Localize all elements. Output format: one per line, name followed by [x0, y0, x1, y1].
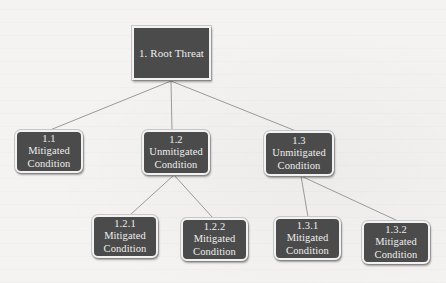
node-1.3.1[interactable]: 1.3.1 Mitigated Condition: [274, 217, 341, 260]
node-line1: Mitigated: [194, 233, 236, 246]
node-root-label: 1. Root Threat: [139, 47, 204, 60]
edge-1.2-to-1.2.1: [130, 175, 174, 215]
node-number: 1.1: [42, 133, 55, 146]
node-line1: Mitigated: [28, 145, 70, 158]
node-line2: Condition: [286, 245, 329, 258]
edge-1-to-1.2: [171, 81, 172, 131]
node-1.2[interactable]: 1.2 Unmitigated Condition: [142, 130, 210, 175]
node-line1: Unmitigated: [149, 146, 203, 159]
node-number: 1.3.2: [385, 224, 407, 237]
edge-1-to-1.1: [50, 81, 171, 130]
node-line2: Condition: [375, 249, 418, 262]
node-line2: Condition: [104, 243, 147, 256]
node-line1: Mitigated: [287, 232, 329, 245]
node-1.3[interactable]: 1.3 Unmitigated Condition: [264, 131, 334, 176]
node-number: 1.2: [169, 134, 182, 147]
node-number: 1.3.1: [297, 220, 319, 233]
node-line2: Condition: [193, 246, 236, 259]
node-1.3.2[interactable]: 1.3.2 Mitigated Condition: [362, 221, 430, 264]
node-line2: Condition: [278, 160, 321, 173]
node-number: 1.2.1: [114, 218, 136, 231]
node-line1: Unmitigated: [272, 147, 326, 160]
edge-1-to-1.3: [171, 81, 296, 131]
node-1.2.2[interactable]: 1.2.2 Mitigated Condition: [181, 218, 248, 261]
edge-1.2-to-1.2.2: [174, 175, 213, 218]
node-line1: Mitigated: [375, 236, 417, 249]
node-1.1[interactable]: 1.1 Mitigated Condition: [15, 130, 83, 173]
node-1.2.1[interactable]: 1.2.1 Mitigated Condition: [92, 215, 158, 258]
node-root-threat[interactable]: 1. Root Threat: [132, 26, 211, 80]
edge-1.3-to-1.3.2: [301, 176, 398, 221]
node-line1: Mitigated: [104, 230, 146, 243]
node-number: 1.3: [292, 135, 305, 148]
node-line2: Condition: [155, 159, 198, 172]
edge-1.3-to-1.3.1: [301, 176, 308, 217]
node-line2: Condition: [28, 158, 71, 171]
node-number: 1.2.2: [204, 221, 226, 234]
